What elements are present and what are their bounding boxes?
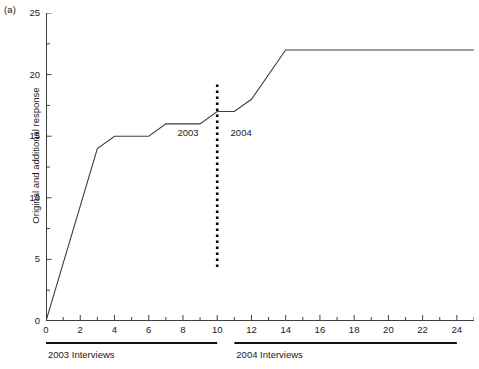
plot-area: 0510152025 024681012141618202224 2003200… [46, 13, 474, 321]
x-axis-major-ticks [46, 315, 457, 321]
x-tick-label: 20 [375, 324, 401, 335]
y-tick-label: 5 [14, 253, 40, 264]
chart-canvas [46, 13, 474, 321]
x-tick-label: 8 [170, 324, 196, 335]
data-series-layer [46, 50, 474, 321]
y-tick-label: 25 [14, 7, 40, 18]
x-tick-label: 12 [238, 324, 264, 335]
x-tick-label: 6 [136, 324, 162, 335]
figure-panel-a: (a) Original and additional response 051… [0, 0, 479, 369]
x-tick-label: 2 [67, 324, 93, 335]
axis-lines [46, 13, 474, 321]
x-tick-label: 0 [33, 324, 59, 335]
x-tick-label: 16 [307, 324, 333, 335]
x-tick-label: 18 [341, 324, 367, 335]
x-tick-label: 22 [410, 324, 436, 335]
x-tick-label: 24 [444, 324, 470, 335]
y-tick-label: 10 [14, 192, 40, 203]
group-caption: 2004 Interviews [236, 349, 303, 361]
group-caption: 2003 Interviews [48, 349, 115, 361]
era-label-2003: 2003 [178, 127, 199, 138]
y-axis-minor-ticks [47, 44, 51, 290]
x-tick-label: 10 [204, 324, 230, 335]
series-line-0 [46, 50, 474, 321]
x-tick-label: 4 [101, 324, 127, 335]
era-label-2004: 2004 [231, 127, 252, 138]
y-tick-label: 15 [14, 130, 40, 141]
x-tick-label: 14 [273, 324, 299, 335]
y-tick-label: 20 [14, 69, 40, 80]
x-axis-minor-ticks [63, 317, 474, 321]
